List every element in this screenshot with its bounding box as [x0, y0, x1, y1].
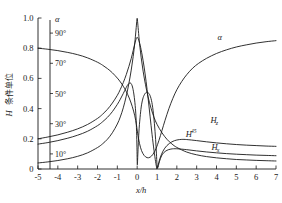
x-tick-label: 2 [175, 172, 179, 182]
x-axis-title: x/h [135, 185, 146, 195]
y-tick-label: 0.2 [23, 134, 34, 144]
curve-label-h-z: Hz [210, 115, 219, 126]
x-tick-label: -1 [114, 172, 121, 182]
angle-tick-label: 10° [55, 150, 66, 159]
angle-tick-label: 30° [55, 120, 66, 129]
x-tick-label: -5 [34, 172, 41, 182]
curve-h-z [38, 18, 276, 163]
curve-label-subscript: x [216, 147, 220, 153]
curve-label-h-45: H45 [185, 128, 197, 138]
y-axis-title: H条件单位 [4, 73, 14, 118]
x-tick-label: 1 [155, 172, 159, 182]
y-tick-label: 0.6 [23, 73, 34, 83]
x-tick-label: 6 [254, 172, 258, 182]
y-axis-title-symbol: H [4, 110, 14, 118]
curve-α [38, 41, 276, 158]
curves-group [38, 18, 276, 169]
x-tick-label: 3 [195, 172, 199, 182]
line-chart: 00.20.40.60.81.010°30°50°70°90°α-5-4-3-2… [0, 0, 282, 203]
angle-tick-label: 90° [55, 29, 66, 38]
x-tick-label: -2 [94, 172, 101, 182]
y-axis-title-text: 条件单位 [4, 73, 14, 105]
y-tick-label: 1.0 [23, 13, 34, 23]
secondary-axis-symbol: α [55, 14, 60, 24]
x-tick-label: -3 [74, 172, 81, 182]
y-tick-label: 0.4 [23, 104, 34, 114]
curve-label-superscript: 45 [191, 128, 197, 134]
y-tick-label: 0.8 [23, 43, 34, 53]
curve-label-subscript: z [215, 120, 219, 126]
curve-label-base: α [217, 32, 222, 42]
curve-h-45 [38, 37, 276, 168]
angle-tick-label: 50° [55, 90, 66, 99]
curve-labels-group: αHzH45Hx [185, 32, 223, 153]
x-tick-label: 4 [214, 172, 219, 182]
curve-h-x [38, 83, 276, 168]
y-tick-label: 0 [29, 164, 33, 174]
chart-figure: 00.20.40.60.81.010°30°50°70°90°α-5-4-3-2… [0, 0, 282, 203]
x-tick-label: 0 [135, 172, 139, 182]
x-tick-label: -4 [54, 172, 62, 182]
x-tick-label: 7 [274, 172, 278, 182]
x-tick-label: 5 [234, 172, 238, 182]
angle-tick-label: 70° [55, 59, 66, 68]
curve-label-α: α [217, 32, 222, 42]
